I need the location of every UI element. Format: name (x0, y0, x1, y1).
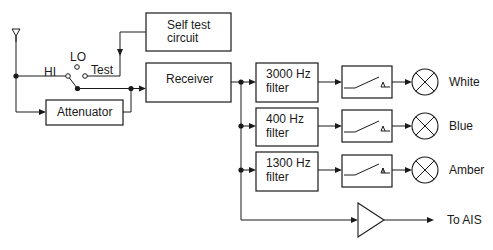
filter-3000hz-line1: 3000 Hz (266, 67, 311, 81)
lamp-label-blue: Blue (449, 119, 473, 133)
filter-1300hz-line2: filter (266, 170, 289, 184)
arrow-head-icon (139, 86, 146, 92)
attenuator-output-wire (123, 89, 131, 113)
lamp-white-icon (412, 69, 438, 95)
arrow-head-icon (405, 167, 412, 173)
arrow-head-icon (249, 123, 256, 129)
arrow-head-icon (249, 79, 256, 85)
relay-icon (342, 66, 392, 98)
selector-switch[interactable] (66, 65, 88, 91)
lamp-label-amber: Amber (449, 163, 484, 177)
lamp-label-white: White (449, 75, 480, 89)
self-test-label-line2: circuit (167, 31, 198, 45)
attenuator-label: Attenuator (57, 105, 112, 119)
arrow-head-icon (249, 167, 256, 173)
lamp-amber-icon (412, 157, 438, 183)
junction-dot (238, 123, 243, 128)
filter-400hz-line2: filter (266, 126, 289, 140)
relay-icon (342, 110, 392, 142)
arrow-head-icon (39, 109, 46, 115)
junction-dot (238, 79, 243, 84)
arrow-head-icon (117, 49, 123, 56)
filter-400hz-line1: 400 Hz (266, 112, 304, 126)
arrow-head-icon (427, 217, 434, 223)
relay-icon (342, 155, 392, 187)
ais-output-label: To AIS (447, 213, 482, 227)
arrow-head-icon (351, 217, 358, 223)
switch-label-test: Test (91, 63, 113, 77)
arrow-head-icon (335, 167, 342, 173)
arrow-head-icon (335, 123, 342, 129)
arrow-head-icon (335, 79, 342, 85)
receiver-label: Receiver (166, 72, 213, 86)
arrow-head-icon (405, 123, 412, 129)
switch-label-hi: HI (44, 65, 56, 79)
amplifier-icon (358, 203, 384, 237)
junction-dot (238, 167, 243, 172)
filter-1300hz-line1: 1300 Hz (266, 156, 311, 170)
antenna-feed-wire (16, 36, 40, 112)
filter-3000hz-line2: filter (266, 81, 289, 95)
switch-label-lo: LO (70, 50, 86, 64)
block-diagram-canvas (0, 0, 493, 250)
lamp-blue-icon (412, 113, 438, 139)
arrow-head-icon (405, 79, 412, 85)
self-test-label-line1: Self test (167, 18, 210, 32)
